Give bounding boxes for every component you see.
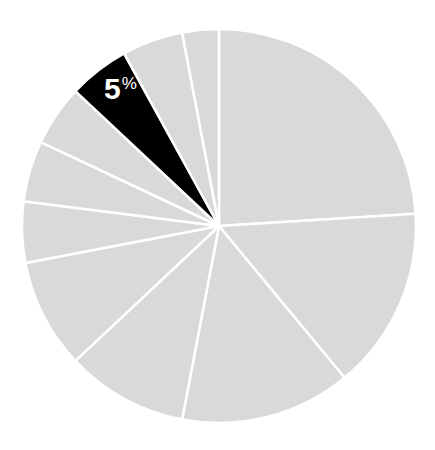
pie-chart [0,0,435,450]
highlight-label-value: 5 [104,72,121,105]
highlight-label-suffix: % [122,74,137,93]
pie-slice [219,29,416,226]
highlight-slice-label: 5% [104,74,137,104]
